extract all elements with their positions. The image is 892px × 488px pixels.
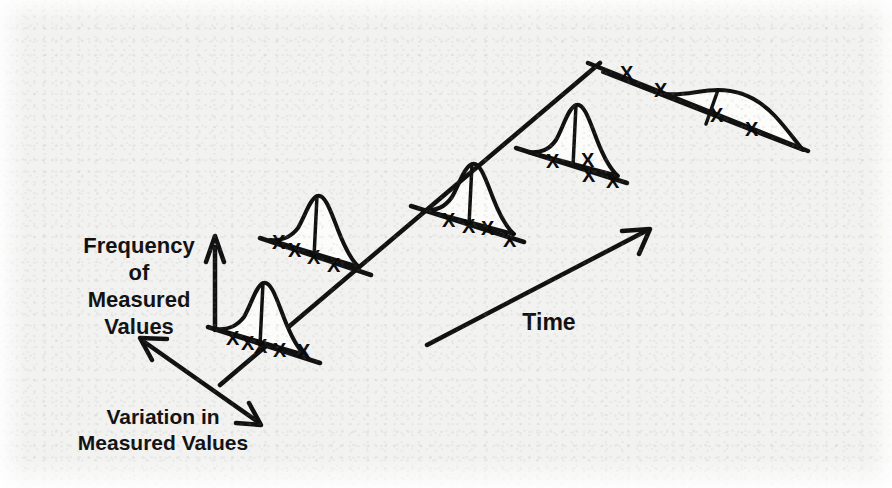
time-axis-label: Time xyxy=(522,309,575,335)
data-point-x: X xyxy=(241,332,255,354)
distribution-2: X X X X xyxy=(260,196,371,276)
data-point-x: X xyxy=(481,217,495,239)
data-point-x: X xyxy=(582,164,596,186)
frequency-axis-group xyxy=(206,236,224,330)
data-point-x: X xyxy=(620,62,634,84)
distribution-1: X X X X X xyxy=(208,283,320,363)
data-point-x: X xyxy=(272,231,286,253)
frequency-label-line-2: of xyxy=(129,260,150,285)
data-point-x: X xyxy=(307,246,321,268)
data-point-x: X xyxy=(288,239,302,261)
data-point-x: X xyxy=(654,79,668,101)
data-point-x: X xyxy=(710,104,724,126)
frequency-label-line-3: Measured xyxy=(88,287,191,312)
data-point-x: X xyxy=(254,335,268,357)
data-point-x: X xyxy=(462,215,476,237)
data-point-x: X xyxy=(606,170,620,192)
data-point-x: X xyxy=(546,150,560,172)
distribution-5: X X X X xyxy=(588,62,808,151)
frequency-label-line-1: Frequency xyxy=(83,233,195,258)
frequency-label-line-4: Values xyxy=(104,314,174,339)
data-point-x: X xyxy=(327,254,341,276)
data-point-x: X xyxy=(503,229,517,251)
variation-label-line-1: Variation in xyxy=(106,405,219,428)
process-variation-diagram: X X X X X X X X X X X X xyxy=(0,0,892,488)
data-point-x: X xyxy=(745,118,759,140)
frequency-axis-label: Frequency of Measured Values xyxy=(83,233,195,339)
variation-label-line-2: Measured Values xyxy=(78,431,248,454)
data-point-x: X xyxy=(273,339,287,361)
variation-axis-label: Variation in Measured Values xyxy=(78,405,248,454)
figure-canvas: X X X X X X X X X X X X xyxy=(0,0,892,488)
data-point-x: X xyxy=(226,327,240,349)
data-point-x: X xyxy=(297,340,311,362)
time-label: Time xyxy=(522,309,575,335)
data-point-x: X xyxy=(442,209,456,231)
